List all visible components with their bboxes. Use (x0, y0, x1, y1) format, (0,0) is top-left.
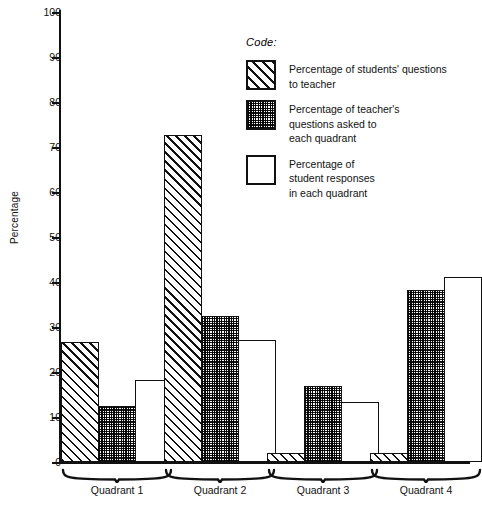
bar-q1-teacher-questions (98, 406, 136, 462)
y-tick-label: 30 (17, 322, 61, 332)
brace-quadrant-2 (164, 468, 276, 483)
bar-q2-teacher-questions (201, 316, 239, 462)
legend-label: Percentage of student responses in each … (289, 155, 375, 201)
x-axis-line (59, 462, 470, 464)
y-tick-label: 80 (17, 97, 61, 107)
y-axis-title: Percentage (9, 178, 20, 258)
x-label-quadrant-3: Quadrant 3 (267, 484, 379, 496)
diagonal-hatch-swatch-icon (246, 60, 276, 90)
x-label-quadrant-4: Quadrant 4 (370, 484, 482, 496)
x-label-quadrant-1: Quadrant 1 (61, 484, 173, 496)
brace-quadrant-1 (61, 468, 173, 483)
y-tick-label: 40 (17, 277, 61, 287)
white-swatch-icon (246, 155, 276, 185)
bar-q1-students-questions (61, 342, 99, 462)
legend-label: Percentage of students' questions to tea… (289, 60, 447, 91)
y-tick-label: 100 (17, 7, 61, 17)
bar-q3-students-questions (267, 453, 305, 462)
legend-title: Code: (246, 36, 471, 48)
legend-item-teacher-questions: Percentage of teacher's questions asked … (246, 100, 471, 146)
y-tick-label: 10 (17, 412, 61, 422)
bar-q2-students-questions (164, 135, 202, 462)
legend: Code: Percentage of students' questions … (246, 36, 471, 209)
bar-q4-teacher-questions (407, 290, 445, 462)
y-tick-label: 0 (17, 457, 61, 467)
brace-quadrant-3 (267, 468, 379, 483)
y-tick-label: 70 (17, 142, 61, 152)
bar-q4-students-questions (370, 453, 408, 462)
y-tick-label: 50 (17, 232, 61, 242)
bar-q3-teacher-questions (304, 386, 342, 462)
legend-item-student-responses: Percentage of student responses in each … (246, 155, 471, 201)
bar-q4-student-responses (444, 277, 482, 462)
y-tick-label: 20 (17, 367, 61, 377)
legend-label: Percentage of teacher's questions asked … (289, 100, 400, 146)
y-tick-label: 90 (17, 52, 61, 62)
legend-item-students-questions: Percentage of students' questions to tea… (246, 60, 471, 91)
y-tick-label: 60 (17, 187, 61, 197)
brace-quadrant-4 (370, 468, 482, 483)
bar-group-quadrant-1 (61, 12, 173, 462)
checkered-swatch-icon (246, 100, 276, 130)
x-label-quadrant-2: Quadrant 2 (164, 484, 276, 496)
